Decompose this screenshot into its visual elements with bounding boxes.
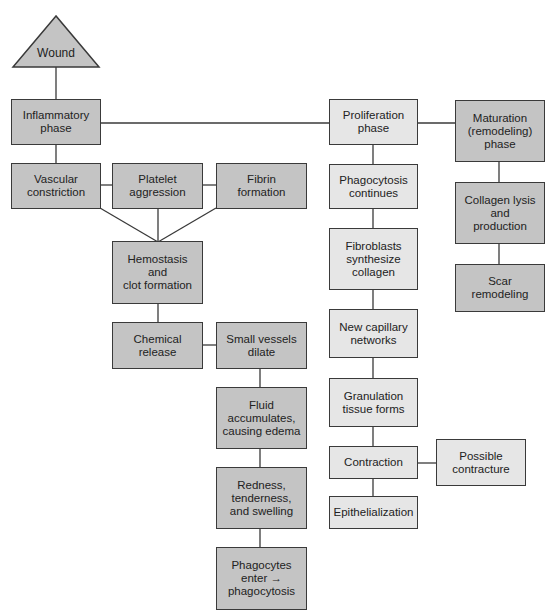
contraction-node: Contraction [329, 446, 418, 479]
collagen-lysis-node: Collagen lysis and production [455, 182, 545, 244]
redness-node: Redness, tenderness, and swelling [216, 467, 307, 529]
hemostasis-node: Hemostasis and clot formation [112, 241, 203, 304]
scar-remodeling-node: Scar remodeling [455, 264, 545, 312]
wound-healing-flowchart: Wound Inflammatory phase Vascular constr… [0, 0, 554, 615]
vascular-constriction-node: Vascular constriction [11, 163, 101, 209]
fibrin-formation-node: Fibrin formation [216, 163, 307, 209]
fibroblasts-node: Fibroblasts synthesize collagen [329, 228, 418, 290]
possible-contracture-node: Possible contracture [436, 439, 526, 486]
epithelialization-node: Epithelialization [329, 496, 418, 529]
phagocytes-enter-node: Phagocytes enter → phagocytosis [216, 547, 307, 610]
small-vessels-dilate-node: Small vessels dilate [216, 322, 307, 369]
chemical-release-node: Chemical release [112, 322, 203, 369]
granulation-node: Granulation tissue forms [329, 378, 418, 427]
maturation-phase-node: Maturation (remodeling) phase [455, 100, 545, 162]
platelet-aggression-node: Platelet aggression [112, 163, 203, 209]
new-capillary-node: New capillary networks [329, 309, 418, 358]
proliferation-phase-node: Proliferation phase [329, 99, 418, 145]
inflammatory-phase-node: Inflammatory phase [11, 99, 101, 145]
fluid-accumulates-node: Fluid accumulates, causing edema [216, 387, 307, 449]
phagocytosis-continues-node: Phagocytosis continues [329, 164, 418, 209]
wound-label: Wound [37, 46, 75, 60]
wound-node: Wound [26, 46, 86, 60]
